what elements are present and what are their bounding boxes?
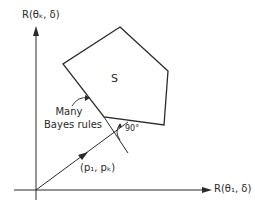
bayes-label-line1: Many xyxy=(44,105,94,118)
bayes-rules-label: Many Bayes rules xyxy=(44,105,94,131)
x-axis-arrow-icon xyxy=(202,187,212,193)
set-label: S xyxy=(111,72,118,85)
vector-arrow-icon xyxy=(78,152,88,160)
vector-label: (p₁, pₖ) xyxy=(80,162,115,173)
risk-set-diagram xyxy=(0,0,255,212)
bayes-label-line2: Bayes rules xyxy=(44,118,94,131)
y-axis-arrow-icon xyxy=(33,26,39,36)
bayes-rules-line xyxy=(104,117,128,153)
y-axis-label: R(θₖ, δ) xyxy=(22,9,60,20)
x-axis-label: R(θ₁, δ) xyxy=(214,183,251,194)
angle-label: 90° xyxy=(125,124,139,133)
